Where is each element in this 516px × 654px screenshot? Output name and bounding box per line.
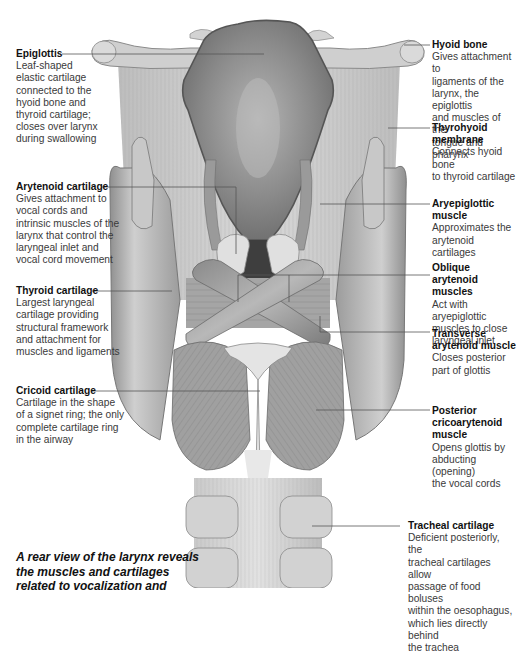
label-description: Gives attachment to vocal cords and intr…: [16, 193, 166, 266]
label-title: Posterior cricoarytenoid muscle: [432, 405, 516, 442]
label-title: Thyrohyoid membrane: [432, 122, 516, 146]
label-description: Connects hyoid bone to thyroid cartilage: [432, 146, 516, 183]
label-title: Hyoid bone: [432, 39, 516, 51]
label-title: Oblique arytenoid muscles: [432, 262, 516, 299]
label-title: Tracheal cartilage: [408, 520, 516, 532]
label-posterior-cricoarytenoid-muscle: Posterior cricoarytenoid muscle Opens gl…: [432, 405, 516, 490]
label-transverse-arytenoid-muscle: Transverse arytenoid muscle Closes poste…: [432, 328, 516, 377]
label-title: Arytenoid cartilage: [16, 181, 166, 193]
label-arytenoid-cartilage: Arytenoid cartilage Gives attachment to …: [16, 181, 166, 266]
label-description: Closes posterior part of glottis: [432, 352, 516, 376]
label-aryepiglottic-muscle: Aryepiglottic muscle Approximates the ar…: [432, 198, 516, 259]
trachea-shape: [186, 478, 332, 588]
label-title: Cricoid cartilage: [16, 385, 166, 397]
label-title: Thyroid cartilage: [16, 285, 166, 297]
label-description: Leaf-shaped elastic cartilage connected …: [16, 60, 156, 145]
label-title: Aryepiglottic muscle: [432, 198, 516, 222]
label-description: Opens glottis by abducting (opening) the…: [432, 442, 516, 491]
figure-caption: A rear view of the larynx reveals the mu…: [16, 550, 206, 594]
label-description: Deficient posteriorly, the tracheal cart…: [408, 532, 516, 654]
label-description: Cartilage in the shape of a signet ring;…: [16, 397, 166, 446]
label-tracheal-cartilage: Tracheal cartilage Deficient posteriorly…: [408, 520, 516, 654]
label-description: Approximates the arytenoid cartilages: [432, 222, 516, 259]
label-cricoid-cartilage: Cricoid cartilage Cartilage in the shape…: [16, 385, 166, 446]
label-title: Transverse arytenoid muscle: [432, 328, 516, 352]
label-thyroid-cartilage: Thyroid cartilage Largest laryngeal cart…: [16, 285, 166, 358]
label-description: Largest laryngeal cartilage providing st…: [16, 297, 166, 358]
label-thyrohyoid-membrane: Thyrohyoid membrane Connects hyoid bone …: [432, 122, 516, 183]
label-epiglottis: Epiglottis Leaf-shaped elastic cartilage…: [16, 48, 156, 146]
label-title: Epiglottis: [16, 48, 156, 60]
